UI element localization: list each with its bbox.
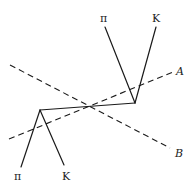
bottom-pi-track (21, 110, 40, 167)
bottom-pi-label: π (14, 170, 21, 183)
bottom-k-label: K (62, 170, 71, 183)
vertex-connector-line (40, 103, 135, 110)
axis-b-label: B (174, 147, 183, 160)
top-k-label: K (152, 12, 161, 25)
top-k-track (135, 27, 156, 103)
top-pi-track (105, 27, 135, 103)
axis-a-label: A (175, 65, 184, 78)
decay-diagram: π K π K A B (0, 0, 196, 187)
top-pi-label: π (100, 12, 107, 25)
